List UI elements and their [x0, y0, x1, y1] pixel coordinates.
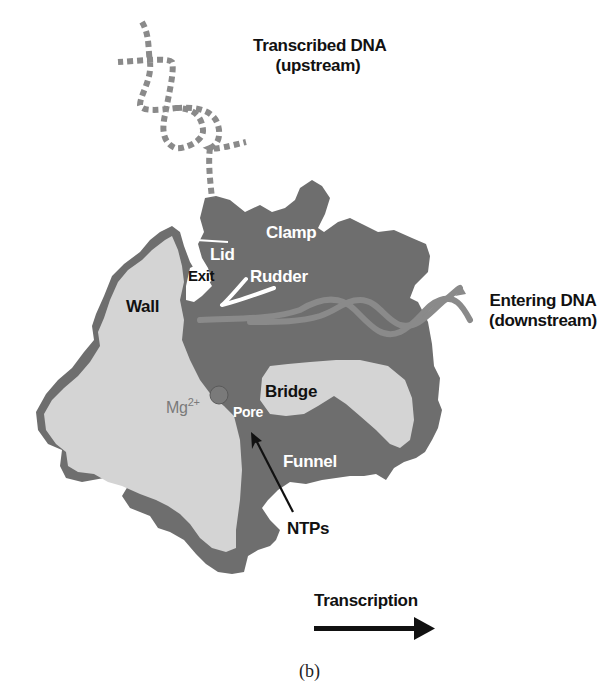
clamp-label: Clamp — [266, 223, 316, 243]
mg-charge: 2+ — [188, 396, 200, 408]
transcribed-dna-line2: (upstream) — [253, 56, 383, 76]
entering-dna-line1: Entering DNA — [478, 291, 608, 311]
panel-label: (b) — [299, 661, 320, 682]
upstream-dna-strand — [118, 22, 246, 198]
pore-label: Pore — [233, 402, 263, 422]
bridge-label: Bridge — [265, 382, 317, 402]
lid-label: Lid — [210, 245, 235, 265]
transcription-label: Transcription — [314, 591, 418, 611]
mg-ion-icon — [210, 386, 228, 404]
rna-polymerase-diagram — [0, 0, 608, 699]
mg-base: Mg — [166, 399, 188, 416]
entering-dna-label: Entering DNA (downstream) — [478, 291, 608, 331]
transcribed-dna-label: Transcribed DNA (upstream) — [253, 36, 383, 76]
rudder-label: Rudder — [250, 267, 308, 287]
transcribed-dna-line1: Transcribed DNA — [253, 36, 383, 56]
transcription-arrow-icon — [314, 617, 435, 640]
exit-label: Exit — [188, 266, 214, 286]
wall-label: Wall — [126, 297, 159, 317]
ntps-label: NTPs — [287, 519, 329, 539]
mg-ion-label: Mg2+ — [166, 398, 200, 418]
funnel-label: Funnel — [283, 452, 337, 472]
entering-dna-line2: (downstream) — [478, 311, 608, 331]
